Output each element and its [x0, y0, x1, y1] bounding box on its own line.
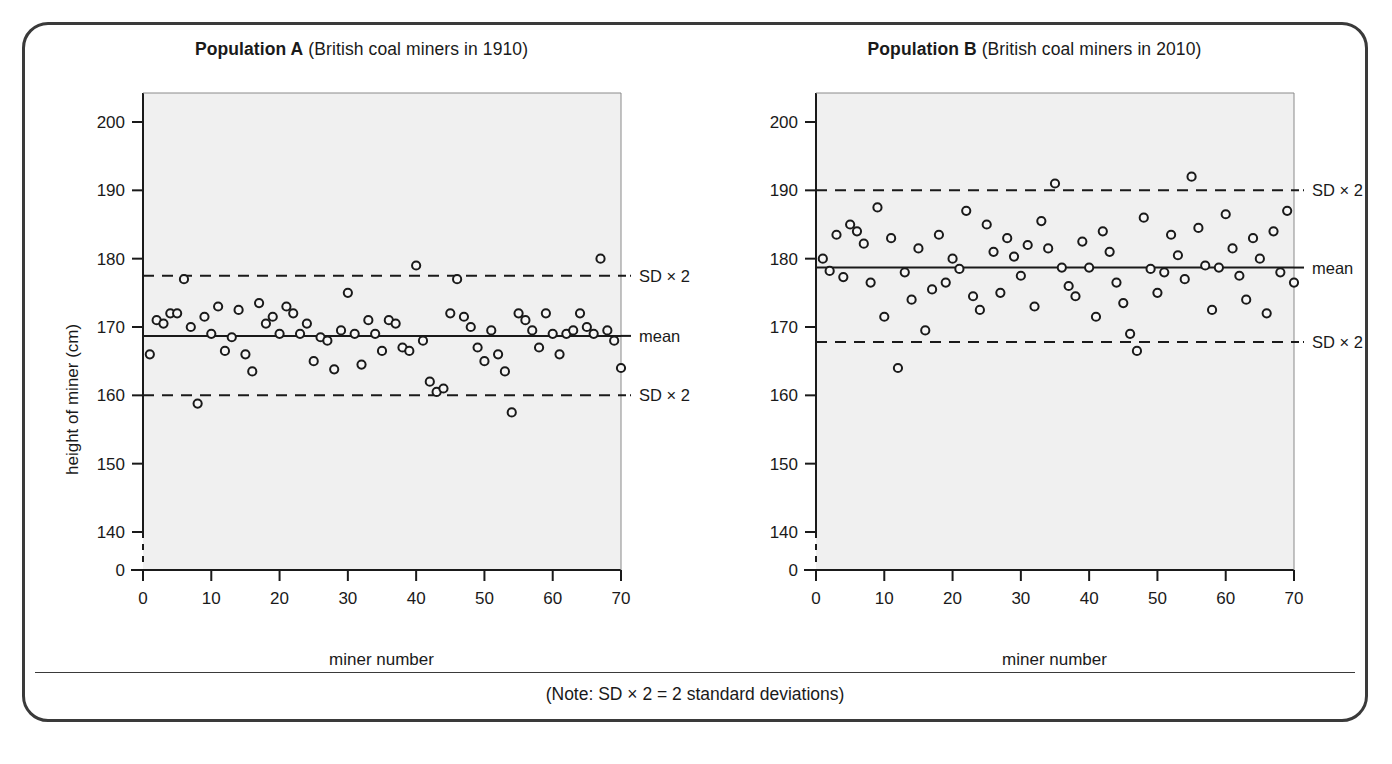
svg-text:20: 20 — [943, 589, 962, 608]
data-point — [194, 399, 202, 407]
data-point — [439, 384, 447, 392]
data-point — [955, 265, 963, 273]
chart-panel-population-a: Population A (British coal miners in 191… — [25, 25, 698, 685]
data-point — [1283, 207, 1291, 215]
data-point — [474, 343, 482, 351]
data-point — [494, 350, 502, 358]
data-point — [1112, 278, 1120, 286]
svg-text:0: 0 — [116, 561, 125, 580]
svg-text:180: 180 — [770, 250, 798, 269]
data-point — [1208, 306, 1216, 314]
data-point — [826, 267, 834, 275]
data-point — [351, 330, 359, 338]
data-point — [1003, 234, 1011, 242]
data-point — [1235, 272, 1243, 280]
data-point — [262, 319, 270, 327]
svg-text:200: 200 — [97, 113, 125, 132]
svg-text:SD × 2: SD × 2 — [1312, 181, 1363, 199]
data-point — [235, 306, 243, 314]
data-point — [528, 326, 536, 334]
data-point — [1249, 234, 1257, 242]
svg-text:0: 0 — [811, 589, 820, 608]
data-point — [921, 326, 929, 334]
data-point — [1058, 263, 1066, 271]
data-point — [583, 323, 591, 331]
data-point — [1044, 244, 1052, 252]
svg-text:60: 60 — [1216, 589, 1235, 608]
data-point — [1147, 265, 1155, 273]
data-point — [180, 275, 188, 283]
data-point — [1201, 261, 1209, 269]
data-point — [576, 309, 584, 317]
data-point — [1099, 227, 1107, 235]
x-axis-label-population-a: miner number — [45, 650, 718, 670]
data-point — [241, 350, 249, 358]
svg-text:70: 70 — [612, 589, 631, 608]
svg-text:40: 40 — [407, 589, 426, 608]
data-point — [887, 234, 895, 242]
data-point — [1106, 248, 1114, 256]
data-point — [303, 319, 311, 327]
svg-text:mean: mean — [1312, 259, 1353, 277]
svg-text:SD × 2: SD × 2 — [639, 267, 690, 285]
data-point — [535, 343, 543, 351]
data-point — [480, 357, 488, 365]
data-point — [508, 408, 516, 416]
svg-text:SD × 2: SD × 2 — [639, 386, 690, 404]
data-point — [310, 357, 318, 365]
data-point — [603, 326, 611, 334]
data-point — [839, 273, 847, 281]
data-point — [846, 220, 854, 228]
data-point — [969, 292, 977, 300]
data-point — [1065, 282, 1073, 290]
data-point — [221, 347, 229, 355]
data-point — [1010, 253, 1018, 261]
svg-text:40: 40 — [1080, 589, 1099, 608]
plot-area-population-b: 0140150160170180190200010203040506070SD … — [698, 25, 1371, 685]
data-point — [1228, 244, 1236, 252]
data-point — [1194, 224, 1202, 232]
data-point — [228, 333, 236, 341]
data-point — [426, 378, 434, 386]
data-point — [467, 323, 475, 331]
data-point — [555, 350, 563, 358]
data-point — [880, 313, 888, 321]
data-point — [1215, 263, 1223, 271]
data-point — [1071, 292, 1079, 300]
svg-text:200: 200 — [770, 113, 798, 132]
svg-text:190: 190 — [97, 181, 125, 200]
data-point — [542, 309, 550, 317]
data-point — [146, 350, 154, 358]
plot-area-population-a: 0140150160170180190200010203040506070SD … — [25, 25, 698, 685]
data-point — [894, 364, 902, 372]
data-point — [460, 313, 468, 321]
svg-text:30: 30 — [338, 589, 357, 608]
data-point — [948, 255, 956, 263]
svg-text:180: 180 — [97, 250, 125, 269]
svg-text:30: 30 — [1011, 589, 1030, 608]
data-point — [1037, 217, 1045, 225]
svg-text:10: 10 — [202, 589, 221, 608]
data-point — [289, 309, 297, 317]
data-point — [296, 330, 304, 338]
data-point — [187, 323, 195, 331]
data-point — [914, 244, 922, 252]
data-point — [832, 231, 840, 239]
svg-text:160: 160 — [97, 386, 125, 405]
data-point — [330, 365, 338, 373]
svg-text:60: 60 — [543, 589, 562, 608]
svg-text:0: 0 — [789, 561, 798, 580]
data-point — [1140, 214, 1148, 222]
data-point — [1092, 313, 1100, 321]
data-point — [853, 227, 861, 235]
data-point — [1126, 330, 1134, 338]
data-point — [860, 240, 868, 248]
svg-text:170: 170 — [97, 318, 125, 337]
scatter-plot-population-b: 0140150160170180190200010203040506070SD … — [698, 25, 1371, 685]
data-point — [1187, 173, 1195, 181]
data-point — [1242, 296, 1250, 304]
data-point — [1181, 275, 1189, 283]
data-point — [323, 337, 331, 345]
x-axis-label-population-b: miner number — [718, 650, 1391, 670]
data-point — [248, 367, 256, 375]
